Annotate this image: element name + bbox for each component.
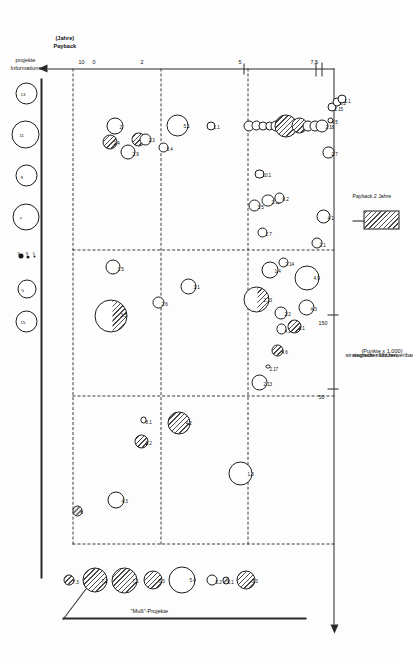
bubble-label-2.2b: 2.2 bbox=[284, 311, 290, 316]
legend-hatch-swatch bbox=[363, 210, 399, 229]
bubble-label-2.18: 2.18 bbox=[325, 124, 334, 129]
bubble-label-4.3b: 4.3 bbox=[310, 306, 316, 311]
bubble-label-2.17: 2.17 bbox=[269, 366, 278, 371]
x-tick-5: 5 bbox=[238, 58, 241, 64]
size-key-dotlabel-1: 1 bbox=[32, 250, 34, 255]
gridline-v-2 bbox=[72, 249, 334, 250]
size-key-circle-9 bbox=[15, 164, 37, 186]
x-tick-10: 10 bbox=[78, 58, 84, 64]
bubble-label-4.2: 4.2 bbox=[185, 420, 191, 425]
x-axis-title-line1: Payback bbox=[53, 42, 76, 48]
size-key-label-5: 5 bbox=[21, 287, 23, 292]
bubble-label-2.1b: 2.1 bbox=[319, 242, 325, 247]
bubble-label-5.2: 5.2 bbox=[215, 579, 221, 584]
must-projects-label: "Muß"-Projekte bbox=[130, 607, 168, 613]
x-tickmark-5 bbox=[243, 63, 244, 74]
bubble-label-3.3: 3.3 bbox=[251, 578, 257, 583]
bubble-label-2.9: 2.9 bbox=[132, 151, 138, 156]
bubble-label-7.2: 7.2 bbox=[101, 578, 107, 583]
gridline-v-3 bbox=[72, 543, 334, 544]
size-key-dotlabel-5: 5 bbox=[17, 250, 19, 255]
y-tick-50: 50 bbox=[318, 393, 324, 399]
bubble-label-2.7: 2.7 bbox=[265, 231, 271, 236]
size-key-dotlabel-3: 3 bbox=[25, 250, 27, 255]
bubble-label-3.5: 3.5 bbox=[257, 204, 263, 209]
legend-hatch-label: Payback 2 Jahre bbox=[352, 192, 391, 198]
bubble-label-5.3: 5.3 bbox=[158, 578, 164, 583]
bubble-label-4.6: 4.6 bbox=[281, 349, 287, 354]
bubble-label-3.4: 3.4 bbox=[166, 146, 172, 151]
bubble-label-3.3b: 3.3 bbox=[120, 312, 126, 317]
bubble-label-2.13: 2.13 bbox=[263, 381, 272, 386]
size-key-circle-7 bbox=[12, 203, 39, 230]
y-axis-title-line3: (Punkte x 1.000) bbox=[361, 347, 402, 353]
size-key-circle-15 bbox=[15, 310, 37, 332]
bubble-label-2.7b: 2.7 bbox=[331, 151, 337, 156]
y-tickmark-150 bbox=[327, 314, 338, 315]
bubble-label-1.1b: 1.1 bbox=[344, 98, 350, 103]
size-key-label-9: 9 bbox=[20, 174, 22, 179]
bubble-label-8.1: 8.1 bbox=[145, 419, 151, 424]
bubble-label-5.4: 5.4 bbox=[189, 578, 195, 583]
size-key-label-11: 11 bbox=[19, 132, 24, 137]
bubble-label-1.3: 1.3 bbox=[247, 471, 253, 476]
size-key-circle-11 bbox=[11, 120, 39, 148]
bubble-label-7.3: 7.3 bbox=[72, 579, 78, 584]
bubble-label-2.15: 2.15 bbox=[334, 106, 343, 111]
bubble-label-6: 6 bbox=[80, 509, 82, 514]
bubble-label-2.3: 2.3 bbox=[148, 137, 154, 142]
bubble-label-4.5: 4.5 bbox=[331, 119, 337, 124]
size-key-label-7: 7 bbox=[19, 215, 21, 220]
bubble-label-4.3: 4.3 bbox=[121, 498, 127, 503]
bubble-label-1.5: 1.5 bbox=[117, 266, 123, 271]
bubble-label-5.1: 5.1 bbox=[227, 579, 233, 584]
bubble-label-4.9: 4.9 bbox=[313, 275, 319, 280]
bubble-label-5.1b: 5.1 bbox=[183, 123, 189, 128]
bubble-label-10.1: 10.1 bbox=[262, 173, 271, 178]
x-tickmark-7-5b bbox=[321, 62, 322, 76]
bubble-label-2.1: 2.1 bbox=[298, 325, 304, 330]
y-axis-line bbox=[47, 68, 334, 69]
must-projects-line bbox=[62, 617, 306, 619]
bubble-label-3.1: 3.1 bbox=[193, 284, 199, 289]
x-tickmark-7-5 bbox=[315, 62, 316, 76]
bubble-label-2: 2 bbox=[119, 124, 121, 129]
bubble-label-1.1: 1.1 bbox=[213, 124, 219, 129]
bubble-label-2.6: 2.6 bbox=[161, 301, 167, 306]
info-projects-rule bbox=[40, 78, 42, 578]
x-tick-0: 0 bbox=[92, 58, 95, 64]
bubble-label-1.4: 1.4 bbox=[274, 268, 280, 273]
size-key-circle-5 bbox=[17, 279, 36, 298]
x-tick-2: 2 bbox=[140, 58, 143, 64]
size-key-label-15: 15 bbox=[20, 319, 25, 324]
bubble-label-2.14: 2.14 bbox=[285, 261, 294, 266]
bubble-label-2.4: 2.4 bbox=[113, 140, 119, 145]
size-key-circle-13 bbox=[15, 82, 37, 104]
x-axis-title-line2: (Jahre) bbox=[55, 34, 74, 40]
info-projects-label-line2: projekte bbox=[15, 56, 35, 62]
bubble-label-4.1: 4.1 bbox=[327, 215, 333, 220]
bubble-label-2.2: 2.2 bbox=[145, 440, 151, 445]
info-projects-label-line1: Informations- bbox=[10, 64, 43, 70]
gridline-v-1 bbox=[72, 395, 334, 396]
y-tick-150: 150 bbox=[318, 319, 327, 325]
bubble-label-8.2: 8.2 bbox=[282, 196, 288, 201]
y-tickmark-50 bbox=[327, 388, 338, 389]
bubble-label-7.1: 7.1 bbox=[132, 578, 138, 583]
x-axis-arrowhead bbox=[330, 624, 338, 633]
bubble-label-2.13b: 2.13 bbox=[263, 297, 272, 302]
size-key-label-13: 13 bbox=[20, 91, 25, 96]
legend-hatch-pin bbox=[352, 220, 364, 221]
gridline-h-3 bbox=[72, 68, 73, 544]
